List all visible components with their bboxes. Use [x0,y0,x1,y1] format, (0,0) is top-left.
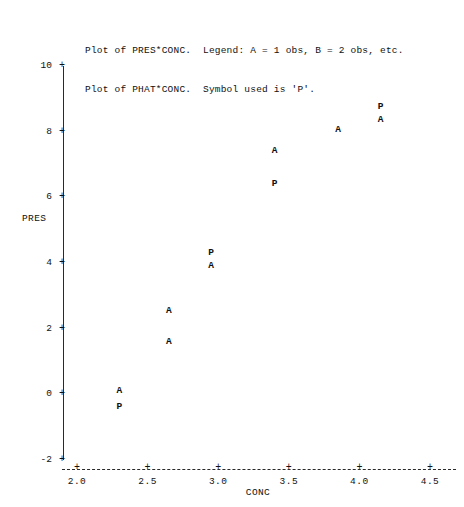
plot-title-block: Plot of PRES*CONC. Legend: A = 1 obs, B … [85,18,404,122]
plot-title-line-1: Plot of PRES*CONC. Legend: A = 1 obs, B … [85,44,404,57]
x-tick-label: 2.5 [135,477,161,487]
y-tick-label: 8 [18,127,52,137]
y-tick-mark: + [59,389,65,399]
x-tick-label: 2.0 [64,477,90,487]
y-tick-mark: + [59,61,65,71]
y-tick-mark: + [59,127,65,137]
x-tick-mark: + [74,463,80,473]
plot-title-line-2: Plot of PHAT*CONC. Symbol used is 'P'. [85,83,404,96]
data-point-a-5: A [208,262,214,272]
data-point-a-10: A [378,115,384,125]
y-tick-label: 2 [18,324,52,334]
y-tick-label: 4 [18,258,52,268]
x-tick-mark: + [145,463,151,473]
y-tick-mark: + [59,324,65,334]
x-tick-mark: + [215,463,221,473]
y-tick-label: 0 [18,389,52,399]
x-axis-label: CONC [238,487,278,498]
data-point-a-8: A [335,125,341,135]
data-point-p-9: P [378,102,384,112]
x-tick-mark: + [286,463,292,473]
data-point-a-2: A [166,306,172,316]
x-tick-label: 4.5 [417,477,443,487]
data-point-p-1: P [117,403,123,413]
data-point-p-4: P [208,248,214,258]
data-point-a-3: A [166,337,172,347]
data-point-p-7: P [272,179,278,189]
data-point-a-0: A [117,386,123,396]
x-tick-mark: + [356,463,362,473]
x-tick-mark: + [427,463,433,473]
x-tick-label: 3.0 [205,477,231,487]
scatter-plot-canvas: Plot of PRES*CONC. Legend: A = 1 obs, B … [0,0,464,507]
data-point-a-6: A [272,147,278,157]
x-tick-label: 3.5 [276,477,302,487]
y-tick-label: 6 [18,192,52,202]
y-tick-mark: + [59,192,65,202]
y-tick-mark: + [59,455,65,465]
y-axis-label: PRES [22,213,46,224]
y-tick-mark: + [59,258,65,268]
x-tick-label: 4.0 [346,477,372,487]
y-tick-label: 10 [18,61,52,71]
y-tick-label: -2 [18,455,52,465]
x-axis-line [62,469,456,470]
